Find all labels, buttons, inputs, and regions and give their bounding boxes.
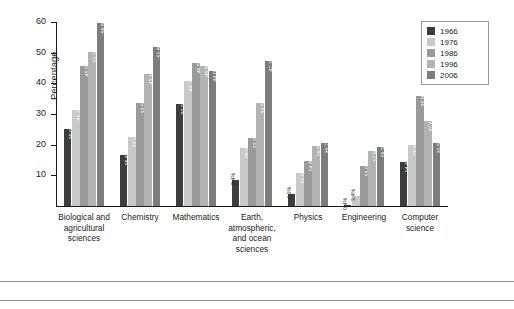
- y-axis-tick-label: 40: [24, 77, 46, 87]
- bar: 18.9%: [240, 148, 248, 206]
- y-axis-tick-label: 20: [24, 139, 46, 149]
- bar: 17.9%: [368, 151, 376, 206]
- bar: 22.5%: [128, 137, 136, 206]
- legend-item[interactable]: 1966: [427, 26, 483, 36]
- bar: 43.1%: [144, 74, 152, 206]
- bar: 50.2%: [88, 52, 96, 206]
- bar-value-label: 59.8%: [100, 18, 106, 33]
- category-label-line: Engineering: [332, 212, 396, 223]
- legend: 19661976198619962006: [421, 21, 489, 85]
- x-axis-category-label: Mathematics: [164, 212, 228, 223]
- bar-value-label: 0.4%: [342, 198, 348, 210]
- legend-swatch-icon: [427, 38, 435, 46]
- y-axis-tick-label: 10: [24, 169, 46, 179]
- legend-label: 1976: [440, 38, 458, 47]
- bar: 20.5%: [433, 143, 441, 206]
- x-axis-category-label: Computerscience: [388, 212, 452, 233]
- y-axis-tick: [51, 22, 57, 23]
- category-label-line: Mathematics: [164, 212, 228, 223]
- x-axis-category-label: Physics: [276, 212, 340, 223]
- legend-swatch-icon: [427, 60, 435, 68]
- bar: 19.3%: [377, 147, 385, 206]
- legend-label: 1966: [440, 27, 458, 36]
- bar-value-label: 20.5%: [436, 139, 442, 154]
- y-axis-tick-label: 30: [24, 108, 46, 118]
- bar: 14.8%: [304, 161, 312, 206]
- y-axis-tick-label: 50: [24, 47, 46, 57]
- y-axis-tick: [51, 145, 57, 146]
- bar: 0.4%: [344, 205, 352, 206]
- bar-value-label: 20.7%: [324, 138, 330, 153]
- category-label-line: atmospheric,: [220, 223, 284, 234]
- bar: 4.0%: [288, 194, 296, 206]
- category-label-line: Chemistry: [108, 212, 172, 223]
- legend-item[interactable]: 1986: [427, 48, 483, 58]
- legend-item[interactable]: 2006: [427, 70, 483, 80]
- bar: 44.0%: [209, 71, 217, 206]
- bar: 33.3%: [176, 104, 184, 206]
- bar: 22.2%: [248, 138, 256, 206]
- legend-item[interactable]: 1996: [427, 59, 483, 69]
- bar: 20.7%: [321, 143, 329, 206]
- bar-value-label: 27.6%: [428, 117, 434, 132]
- legend-swatch-icon: [427, 49, 435, 57]
- bar: 25.0%: [64, 129, 72, 206]
- bar: 46.5%: [192, 63, 200, 206]
- bar-value-label: 19.3%: [380, 142, 386, 157]
- bar-value-label: 44.0%: [212, 66, 218, 81]
- x-axis-category-label: Chemistry: [108, 212, 172, 223]
- bar-value-label: 35.8%: [420, 92, 426, 107]
- bar-value-label: 47.2%: [268, 57, 274, 72]
- bar: 47.2%: [265, 61, 273, 206]
- legend-swatch-icon: [427, 27, 435, 35]
- category-label-line: agricultural: [52, 223, 116, 234]
- bar: 59.8%: [97, 23, 105, 206]
- legend-label: 1996: [440, 60, 458, 69]
- y-axis-tick: [51, 53, 57, 54]
- bar: 13.0%: [360, 166, 368, 206]
- bar: 45.5%: [80, 66, 88, 206]
- legend-swatch-icon: [427, 71, 435, 79]
- y-axis-tick: [51, 83, 57, 84]
- bar: 33.5%: [136, 103, 144, 206]
- bar: 19.8%: [408, 145, 416, 206]
- footer-rule-bottom: [0, 300, 514, 301]
- bar: 51.8%: [153, 47, 161, 206]
- bar: 45.8%: [200, 66, 208, 206]
- legend-label: 2006: [440, 71, 458, 80]
- bar: 16.5%: [120, 155, 128, 206]
- bar: 31.2%: [72, 110, 80, 206]
- category-label-line: science: [388, 223, 452, 234]
- bar: 8.4%: [232, 180, 240, 206]
- bar: 33.5%: [256, 103, 264, 206]
- x-axis-category-label: Earth,atmospheric,and oceansciences: [220, 212, 284, 254]
- bar-value-label: 4.0%: [286, 187, 292, 199]
- footer-rule-top: [0, 281, 514, 282]
- category-label-line: sciences: [220, 244, 284, 255]
- bar: 27.6%: [424, 121, 432, 206]
- bar: 40.7%: [184, 81, 192, 206]
- y-axis-title: Percentage: [48, 51, 59, 100]
- x-axis-line: [56, 206, 448, 207]
- y-axis-tick-label: 60: [24, 16, 46, 26]
- bar: 14.4%: [400, 162, 408, 206]
- bar: 3.4%: [352, 196, 360, 206]
- category-label-line: Biological and: [52, 212, 116, 223]
- bar: 35.8%: [416, 96, 424, 206]
- bar: 19.5%: [312, 146, 320, 206]
- bar-value-label: 3.4%: [350, 188, 356, 200]
- legend-item[interactable]: 1976: [427, 37, 483, 47]
- bar-chart: Percentage 102030405060 25.0%31.2%45.5%5…: [0, 0, 514, 309]
- category-label-line: Computer: [388, 212, 452, 223]
- y-axis-tick: [51, 114, 57, 115]
- category-label-line: sciences: [52, 233, 116, 244]
- x-axis-category-label: Biological andagriculturalsciences: [52, 212, 116, 244]
- x-axis-category-label: Engineering: [332, 212, 396, 223]
- category-label-line: Physics: [276, 212, 340, 223]
- category-label-line: and ocean: [220, 233, 284, 244]
- bar-value-label: 8.4%: [230, 173, 236, 185]
- y-axis-tick: [51, 175, 57, 176]
- bar: 10.9%: [296, 173, 304, 206]
- bar-value-label: 51.8%: [156, 43, 162, 58]
- category-label-line: Earth,: [220, 212, 284, 223]
